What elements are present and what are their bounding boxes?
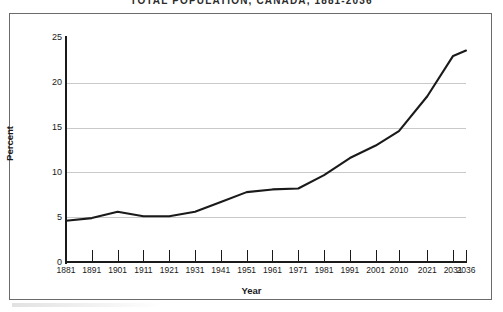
x-tick-1941 xyxy=(221,250,222,262)
x-tick-1911 xyxy=(143,250,144,262)
x-tick-label-1991: 1991 xyxy=(340,265,359,275)
chart-title: TOTAL POPULATION, CANADA, 1881-2036 xyxy=(0,0,503,7)
x-tick-2021 xyxy=(427,250,428,262)
y-tick-label-10: 10 xyxy=(40,168,62,177)
x-tick-1921 xyxy=(169,250,170,262)
x-tick-2031 xyxy=(453,250,454,262)
x-axis-title: Year xyxy=(0,285,503,296)
x-tick-1961 xyxy=(272,250,273,262)
x-tick-1881 xyxy=(66,250,67,262)
x-tick-label-1931: 1931 xyxy=(186,265,205,275)
y-axis-title: Percent xyxy=(4,126,15,161)
x-tick-label-2001: 2001 xyxy=(366,265,385,275)
x-tick-label-1981: 1981 xyxy=(315,265,334,275)
x-tick-label-2036: 2036 xyxy=(457,265,476,275)
x-tick-1931 xyxy=(195,250,196,262)
x-tick-label-1901: 1901 xyxy=(108,265,127,275)
gridline-15 xyxy=(66,128,466,129)
y-tick-label-15: 15 xyxy=(40,123,62,132)
x-tick-2010 xyxy=(399,250,400,262)
x-tick-2036 xyxy=(466,250,467,262)
plot-area xyxy=(66,38,466,262)
x-tick-1951 xyxy=(247,250,248,262)
x-tick-label-2021: 2021 xyxy=(418,265,437,275)
x-tick-label-1941: 1941 xyxy=(211,265,230,275)
x-tick-1971 xyxy=(298,250,299,262)
gridline-10 xyxy=(66,172,466,173)
x-tick-label-1881: 1881 xyxy=(57,265,76,275)
x-tick-label-1891: 1891 xyxy=(82,265,101,275)
chart-page: TOTAL POPULATION, CANADA, 1881-2036 25 2… xyxy=(0,0,503,312)
scan-artifact xyxy=(12,303,162,307)
x-tick-1901 xyxy=(118,250,119,262)
y-tick-label-25: 25 xyxy=(40,33,62,42)
x-tick-1981 xyxy=(324,250,325,262)
x-tick-label-1921: 1921 xyxy=(160,265,179,275)
gridline-5 xyxy=(66,217,466,218)
x-tick-1991 xyxy=(350,250,351,262)
x-tick-label-1971: 1971 xyxy=(289,265,308,275)
x-axis-line xyxy=(65,261,467,263)
x-tick-1891 xyxy=(92,250,93,262)
y-tick-label-20: 20 xyxy=(40,78,62,87)
x-tick-2001 xyxy=(376,250,377,262)
y-axis-line xyxy=(65,36,67,264)
x-tick-label-2010: 2010 xyxy=(389,265,408,275)
x-tick-label-1911: 1911 xyxy=(134,265,152,275)
y-tick-label-5: 5 xyxy=(40,213,62,222)
gridline-20 xyxy=(66,83,466,84)
x-tick-label-1951: 1951 xyxy=(237,265,256,275)
x-tick-label-1961: 1961 xyxy=(263,265,282,275)
